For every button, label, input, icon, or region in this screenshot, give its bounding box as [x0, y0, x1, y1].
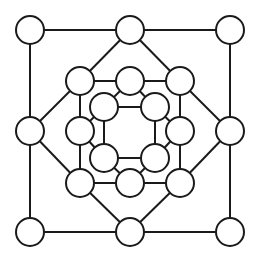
node-circle-m2 [116, 67, 144, 95]
node-circle-i3 [141, 144, 169, 172]
node-circle-o3 [216, 16, 244, 44]
node-circle-m5 [166, 169, 194, 197]
node-circle-o2 [116, 16, 144, 44]
node-circle-o8 [16, 117, 44, 145]
node-circle-m7 [66, 169, 94, 197]
node-circle-o7 [16, 218, 44, 246]
node-circle-i4 [90, 144, 118, 172]
node-circle-i2 [141, 93, 169, 121]
node-circle-i1 [90, 93, 118, 121]
node-circle-m3 [166, 67, 194, 95]
node-layer [16, 16, 244, 246]
node-circle-o1 [16, 16, 44, 44]
node-circle-o4 [216, 117, 244, 145]
node-circle-m1 [66, 67, 94, 95]
node-circle-o6 [116, 218, 144, 246]
node-circle-m4 [166, 117, 194, 145]
graph-diagram [0, 0, 260, 264]
node-circle-m6 [116, 169, 144, 197]
node-circle-m8 [66, 117, 94, 145]
node-circle-o5 [216, 218, 244, 246]
edge-layer [30, 30, 230, 232]
